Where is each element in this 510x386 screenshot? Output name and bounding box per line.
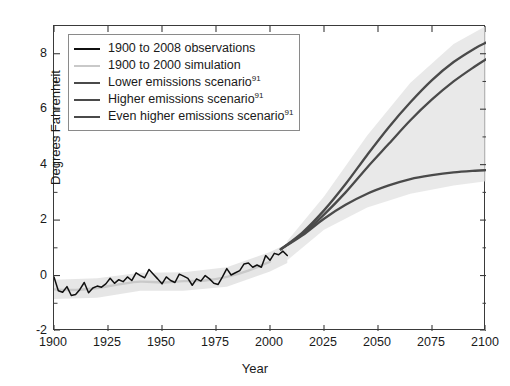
x-axis-label: Year bbox=[0, 361, 510, 376]
legend-footnote-3: 91 bbox=[255, 91, 264, 100]
chart-legend: 1900 to 2008 observations1900 to 2000 si… bbox=[68, 34, 300, 131]
legend-label-2: Lower emissions scenario91 bbox=[108, 76, 261, 89]
x-tick-label-2100: 2100 bbox=[459, 336, 510, 349]
x-tick-label-1975: 1975 bbox=[189, 336, 241, 349]
legend-item-1[interactable]: 1900 to 2000 simulation bbox=[74, 57, 292, 74]
legend-label-3: Higher emissions scenario91 bbox=[108, 93, 264, 106]
legend-footnote-4: 91 bbox=[284, 108, 293, 117]
legend-footnote-2: 91 bbox=[252, 74, 261, 83]
y-tick-label-6: 6 bbox=[13, 102, 47, 115]
x-tick-label-1950: 1950 bbox=[135, 336, 187, 349]
legend-swatch-4 bbox=[74, 116, 100, 118]
y-axis-label: Degrees Fahrenheit bbox=[48, 33, 63, 223]
legend-label-4: Even higher emissions scenario91 bbox=[108, 110, 293, 123]
x-tick-label-1925: 1925 bbox=[81, 336, 133, 349]
legend-swatch-0 bbox=[74, 48, 100, 50]
legend-item-0[interactable]: 1900 to 2008 observations bbox=[74, 40, 292, 57]
legend-swatch-3 bbox=[74, 99, 100, 101]
y-tick-label-2: 2 bbox=[13, 213, 47, 226]
legend-item-2[interactable]: Lower emissions scenario91 bbox=[74, 74, 292, 91]
climate-projection-figure: -202468 19001925195019752000202520502075… bbox=[0, 0, 510, 386]
legend-item-4[interactable]: Even higher emissions scenario91 bbox=[74, 108, 292, 125]
legend-label-0: 1900 to 2008 observations bbox=[108, 42, 255, 55]
y-tick-label-8: 8 bbox=[13, 47, 47, 60]
y-tick-label-4: 4 bbox=[13, 158, 47, 171]
y-tick-label-0: 0 bbox=[13, 269, 47, 282]
legend-label-1: 1900 to 2000 simulation bbox=[108, 59, 241, 72]
legend-item-3[interactable]: Higher emissions scenario91 bbox=[74, 91, 292, 108]
legend-swatch-1 bbox=[74, 65, 100, 67]
x-tick-label-1900: 1900 bbox=[27, 336, 79, 349]
x-tick-label-2025: 2025 bbox=[297, 336, 349, 349]
uncertainty-band-0 bbox=[54, 244, 287, 299]
x-tick-label-2075: 2075 bbox=[405, 336, 457, 349]
x-tick-label-2000: 2000 bbox=[243, 336, 295, 349]
x-tick-label-2050: 2050 bbox=[351, 336, 403, 349]
legend-swatch-2 bbox=[74, 82, 100, 84]
